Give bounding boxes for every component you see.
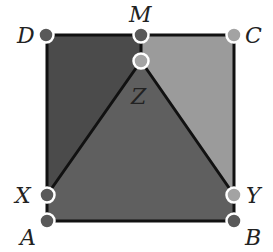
- point-b: [227, 214, 242, 229]
- point-c: [227, 28, 242, 43]
- point-y: [227, 188, 242, 203]
- label-y: Y: [246, 183, 263, 208]
- label-d: D: [16, 23, 35, 48]
- point-x: [40, 188, 55, 203]
- point-z: [134, 54, 149, 69]
- square-diagram: D M C Z X Y A B: [0, 0, 273, 252]
- point-d: [39, 28, 54, 43]
- point-a: [40, 214, 55, 229]
- point-m: [134, 28, 149, 43]
- label-m: M: [128, 2, 152, 27]
- label-z: Z: [130, 84, 147, 109]
- label-a: A: [18, 225, 36, 250]
- label-x: X: [13, 183, 32, 208]
- label-b: B: [244, 225, 261, 250]
- label-c: C: [245, 23, 262, 48]
